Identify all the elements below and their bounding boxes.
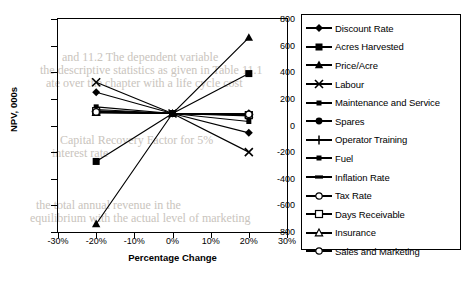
- data-point-circle-filled: [316, 118, 323, 125]
- legend-label: Discount Rate: [335, 23, 393, 34]
- x-axis-label: Percentage Change: [57, 252, 288, 263]
- data-point-square-filled: [316, 43, 323, 50]
- legend-marker-circle-filled-icon: [306, 115, 332, 127]
- legend-marker-glyph: [312, 244, 326, 258]
- legend-marker-circle-open-icon: [306, 245, 332, 257]
- legend-item-sales-and-marketing[interactable]: Sales and Marketing: [306, 242, 460, 261]
- data-point-cross-x: [315, 80, 323, 88]
- legend-marker-cross-x-icon: [306, 78, 332, 90]
- legend-label: Inflation Rate: [335, 172, 390, 183]
- data-point-square-open: [316, 211, 323, 218]
- legend-item-price-acre[interactable]: Price/Acre: [306, 56, 460, 75]
- x-tick-mark: [134, 233, 135, 238]
- data-point-circle-open: [93, 109, 99, 115]
- legend-marker-glyph: [312, 114, 326, 128]
- data-point-diamond: [92, 88, 100, 96]
- data-point-circle-open: [246, 111, 252, 117]
- series-line: [96, 38, 249, 224]
- legend-label: Insurance: [335, 227, 376, 238]
- legend-item-insurance[interactable]: Insurance: [306, 224, 460, 243]
- data-point-cross-x: [245, 148, 253, 156]
- legend-marker-glyph: [312, 77, 326, 91]
- legend-marker-glyph: [312, 133, 326, 147]
- legend-marker-circle-open-icon: [306, 190, 332, 202]
- legend-marker-triangle-filled-icon: [306, 59, 332, 71]
- legend-item-fuel[interactable]: Fuel: [306, 149, 460, 168]
- legend-label: Maintenance and Service: [335, 97, 440, 108]
- legend-marker-glyph: [312, 170, 326, 184]
- legend-item-labour[interactable]: Labour: [306, 75, 460, 94]
- legend-marker-triangle-open-icon: [306, 227, 332, 239]
- data-point-square-small: [246, 119, 251, 124]
- legend-marker-plus-icon: [306, 134, 332, 146]
- data-lines: [58, 19, 287, 232]
- legend-marker-diamond-icon: [306, 22, 332, 34]
- chart-legend: Discount RateAcres HarvestedPrice/AcreLa…: [301, 14, 461, 250]
- data-point-square-small: [317, 100, 322, 105]
- data-point-circle-open: [316, 192, 322, 198]
- legend-item-days-receivable[interactable]: Days Receivable: [306, 205, 460, 224]
- chart-screenshot: and 11.2 The dependent variablethe descr…: [0, 0, 464, 283]
- legend-marker-glyph: [312, 21, 326, 35]
- data-point-triangle-open: [315, 229, 322, 236]
- legend-label: Acres Harvested: [335, 41, 404, 52]
- y-axis-label: NPV, 000s: [8, 75, 19, 145]
- x-tick-mark: [173, 233, 174, 238]
- legend-marker-glyph: [312, 96, 326, 110]
- legend-marker-square-small-icon: [306, 152, 332, 164]
- legend-marker-glyph: [312, 207, 326, 221]
- legend-label: Spares: [335, 116, 365, 127]
- legend-item-tax-rate[interactable]: Tax Rate: [306, 186, 460, 205]
- data-point-square-filled: [245, 70, 252, 77]
- series-price-acre: [92, 33, 253, 227]
- data-point-circle-open: [316, 248, 322, 254]
- legend-label: Labour: [335, 79, 364, 90]
- legend-marker-square-open-icon: [306, 208, 332, 220]
- legend-marker-glyph: [312, 40, 326, 54]
- data-point-square-filled: [93, 158, 100, 165]
- legend-item-inflation-rate[interactable]: Inflation Rate: [306, 168, 460, 187]
- plot-area: [57, 18, 288, 233]
- data-point-triangle-filled: [315, 61, 323, 69]
- legend-marker-glyph: [312, 58, 326, 72]
- legend-marker-glyph: [312, 189, 326, 203]
- legend-label: Operator Training: [335, 134, 407, 145]
- legend-item-spares[interactable]: Spares: [306, 112, 460, 131]
- data-point-plus: [315, 135, 324, 144]
- legend-label: Price/Acre: [335, 60, 378, 71]
- legend-label: Tax Rate: [335, 190, 372, 201]
- data-point-cross-x: [92, 78, 100, 86]
- legend-marker-square-filled-icon: [306, 41, 332, 53]
- data-point-bar: [315, 175, 323, 178]
- sensitivity-chart: NPV, 000s 8006004002000-200-400-600-800 …: [0, 0, 295, 283]
- x-tick-mark: [58, 233, 59, 238]
- legend-label: Sales and Marketing: [335, 246, 420, 257]
- legend-marker-square-small-icon: [306, 97, 332, 109]
- legend-item-discount-rate[interactable]: Discount Rate: [306, 19, 460, 38]
- x-tick-mark: [287, 233, 288, 238]
- data-point-diamond: [315, 24, 323, 32]
- legend-marker-glyph: [312, 226, 326, 240]
- legend-item-maintenance-and-service[interactable]: Maintenance and Service: [306, 93, 460, 112]
- data-point-square-small: [317, 156, 322, 161]
- data-point-triangle-filled: [245, 33, 253, 41]
- x-tick-mark: [211, 233, 212, 238]
- x-tick-mark: [249, 233, 250, 238]
- x-tick-mark: [96, 233, 97, 238]
- legend-label: Days Receivable: [335, 209, 405, 220]
- legend-item-acres-harvested[interactable]: Acres Harvested: [306, 38, 460, 57]
- data-point-diamond: [245, 129, 253, 137]
- legend-item-operator-training[interactable]: Operator Training: [306, 131, 460, 150]
- legend-marker-bar-icon: [306, 171, 332, 183]
- legend-marker-glyph: [312, 151, 326, 165]
- legend-label: Fuel: [335, 153, 353, 164]
